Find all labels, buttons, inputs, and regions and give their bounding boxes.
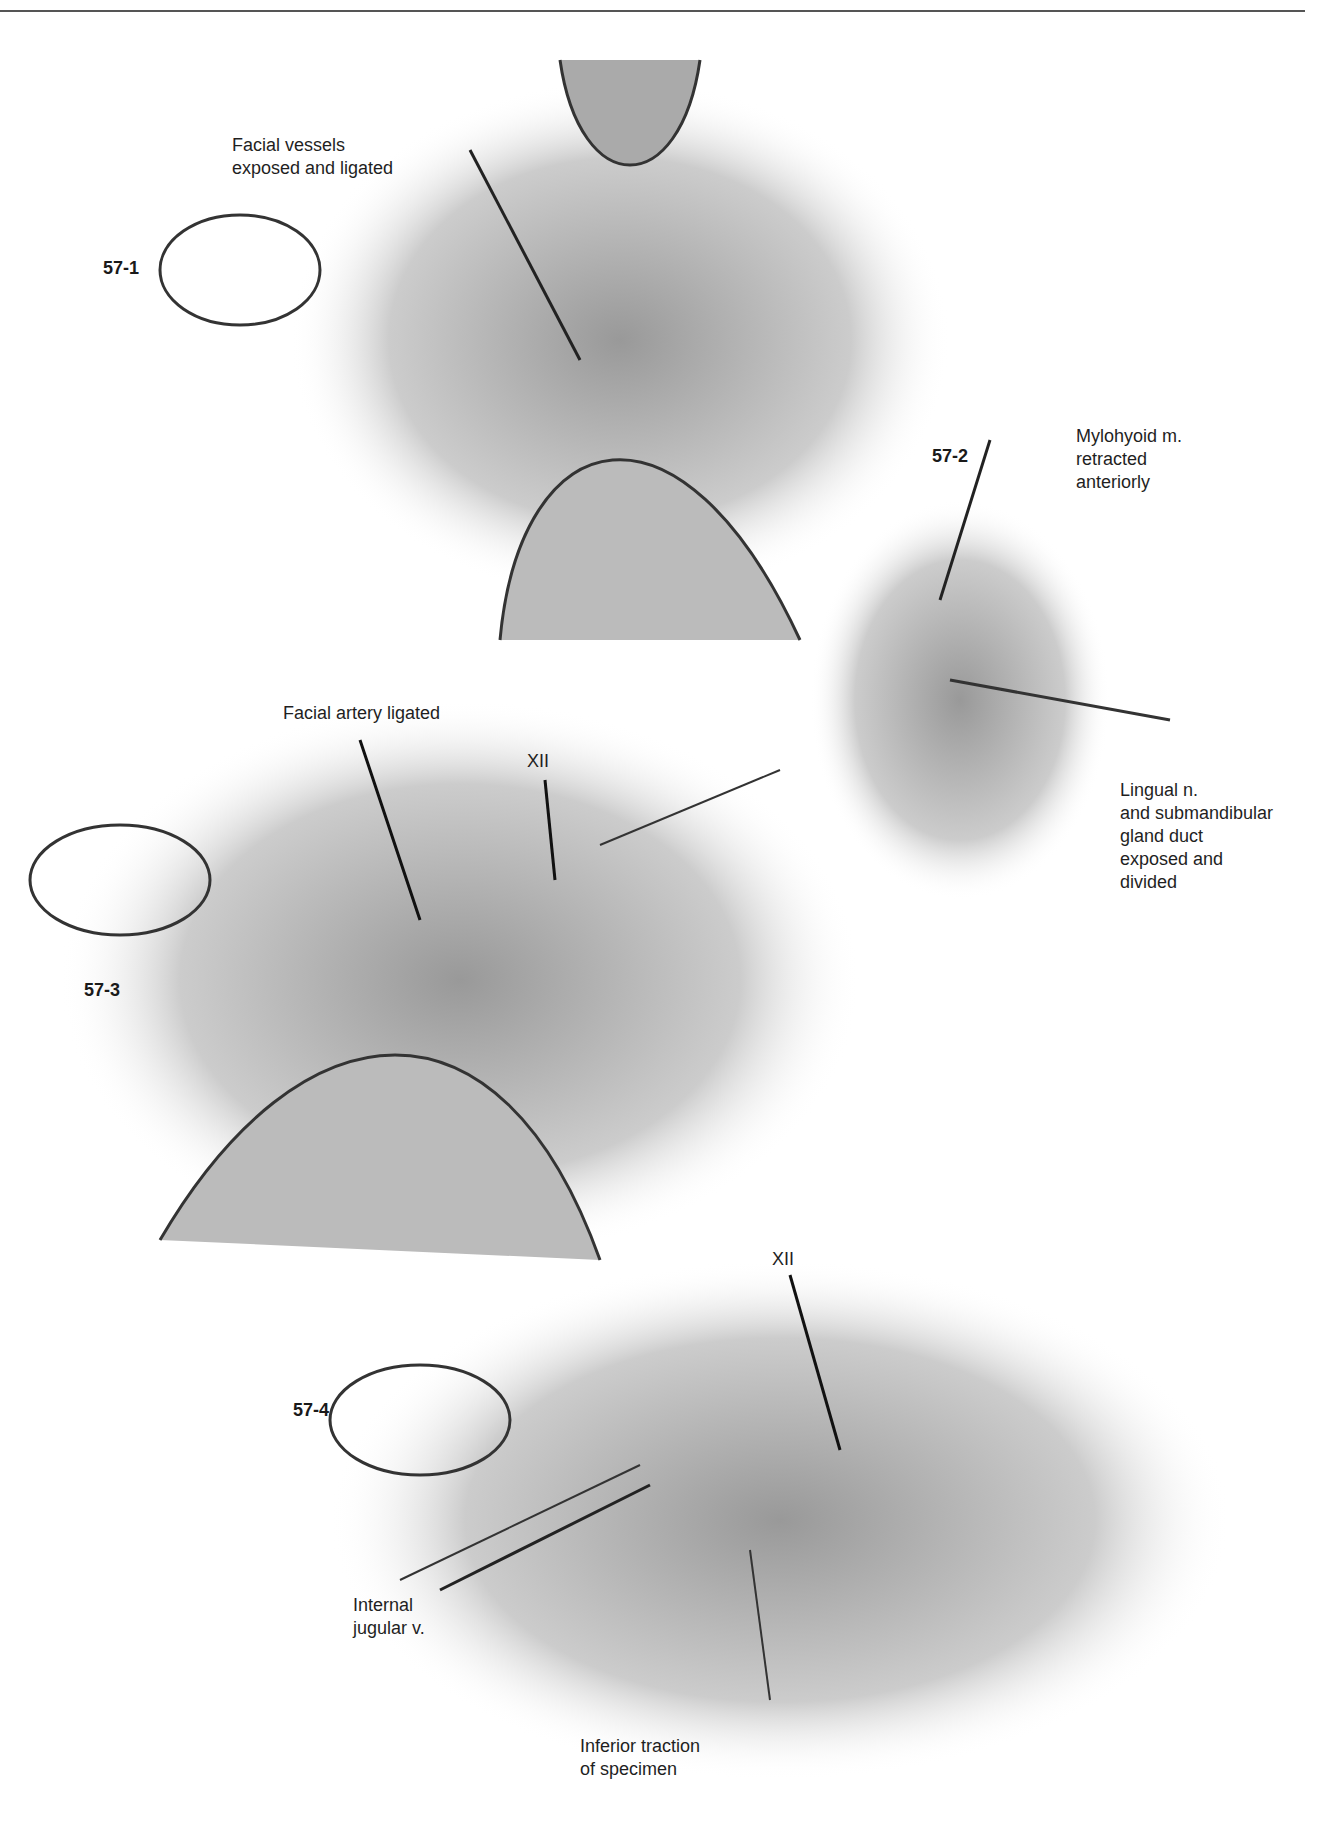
figure-57-4-drawing xyxy=(330,1260,1230,1780)
figure-label-57-2: 57-2 xyxy=(932,446,968,467)
caption-mylohyoid: Mylohyoid m. retracted anteriorly xyxy=(1076,425,1182,494)
figure-57-3-drawing xyxy=(30,700,860,1260)
caption-facial-artery: Facial artery ligated xyxy=(283,702,440,725)
caption-xii-57-4: XII xyxy=(772,1248,794,1271)
caption-internal-jugular: Internal jugular v. xyxy=(353,1594,425,1640)
figure-label-57-3: 57-3 xyxy=(84,980,120,1001)
surgical-illustrations xyxy=(0,0,1336,1846)
caption-inferior-traction: Inferior traction of specimen xyxy=(580,1735,700,1781)
caption-facial-vessels: Facial vessels exposed and ligated xyxy=(232,134,393,180)
figure-label-57-4: 57-4 xyxy=(293,1400,329,1421)
figure-label-57-1: 57-1 xyxy=(103,258,139,279)
caption-lingual-nerve: Lingual n. and submandibular gland duct … xyxy=(1120,779,1273,894)
caption-xii-57-3: XII xyxy=(527,750,549,773)
